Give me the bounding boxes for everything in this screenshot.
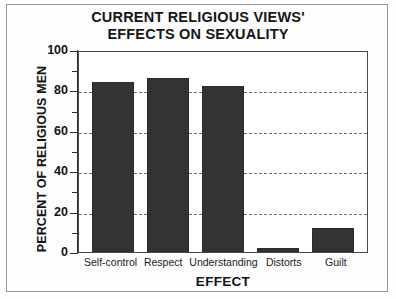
bar-slot [140,52,195,252]
y-tick-major [70,91,78,92]
bar-understanding [202,86,244,252]
x-axis-tick-labels: Self-controlRespectUnderstandingDistorts… [78,256,368,268]
bar-slot [251,52,306,252]
x-axis-title: EFFECT [78,274,368,289]
bar-guilt [312,228,354,252]
bar-self-control [92,82,134,252]
y-tick-major [70,132,78,133]
y-tick-major [70,253,78,254]
bar-respect [147,78,189,252]
plot-area [78,51,368,253]
bar-series [79,52,367,252]
x-tick-label: Understanding [189,256,257,268]
y-tick-major [70,172,78,173]
y-tick-major [70,51,78,52]
y-tick-major [70,213,78,214]
chart-figure: CURRENT RELIGIOUS VIEWS' EFFECTS ON SEXU… [0,0,396,299]
y-tick-label: 40 [8,166,68,176]
y-tick-label: 20 [8,207,68,217]
chart-title: CURRENT RELIGIOUS VIEWS' EFFECTS ON SEXU… [0,9,396,42]
y-tick-label: 80 [8,85,68,95]
y-tick-label: 0 [8,247,68,257]
x-tick-label: Self-control [84,256,137,268]
y-tick-label: 60 [8,126,68,136]
x-tick-label: Distorts [258,256,310,268]
bar-distorts [257,248,299,252]
bar-slot [306,52,361,252]
x-tick-label: Guilt [310,256,362,268]
y-tick-label: 100 [8,45,68,55]
bar-slot [195,52,250,252]
bar-slot [85,52,140,252]
x-tick-label: Respect [137,256,189,268]
